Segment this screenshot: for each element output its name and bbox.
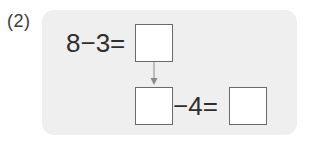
bottom-answer-box[interactable] bbox=[229, 87, 267, 125]
top-equation-expression: 8−3= bbox=[66, 30, 125, 56]
problem-number-label: (2) bbox=[7, 11, 31, 32]
down-arrow-icon bbox=[149, 62, 159, 86]
top-answer-box[interactable] bbox=[135, 24, 173, 62]
bottom-first-box[interactable] bbox=[135, 87, 173, 125]
bottom-equation-expression: −4= bbox=[173, 93, 218, 119]
